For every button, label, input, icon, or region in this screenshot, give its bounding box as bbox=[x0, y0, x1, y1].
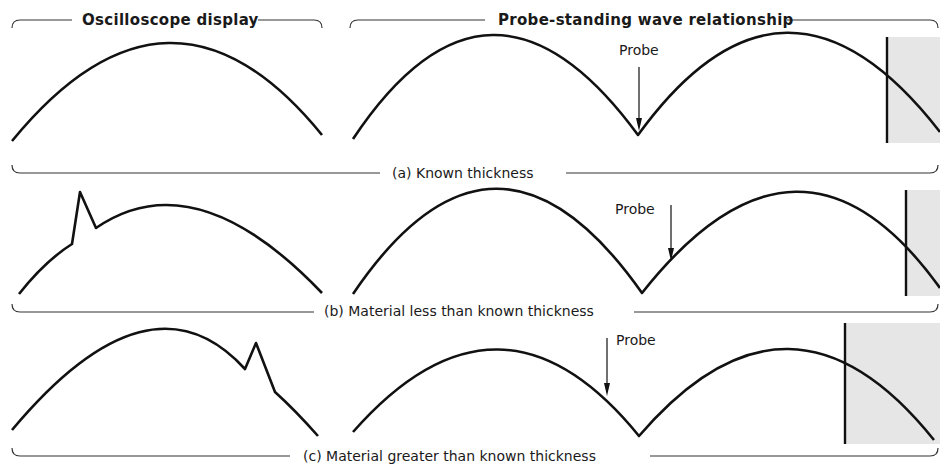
panel-b: Probe (b) Material less than known thick… bbox=[12, 189, 940, 319]
panel-a: Probe (a) Known thickness bbox=[12, 33, 940, 181]
caption-bracket-b-right bbox=[634, 304, 938, 312]
header-oscilloscope-display: Oscilloscope display bbox=[82, 11, 259, 29]
diagram-canvas: Oscilloscope display Probe-standing wave… bbox=[0, 0, 940, 465]
panel-c: Probe (c) Material greater than known th… bbox=[12, 323, 940, 464]
probe-arrowhead-c bbox=[604, 383, 610, 396]
caption-bracket-b-left bbox=[12, 304, 314, 312]
probe-label-c: Probe bbox=[616, 332, 656, 348]
caption-bracket-a-left bbox=[12, 165, 380, 173]
caption-c: (c) Material greater than known thicknes… bbox=[303, 448, 596, 464]
oscilloscope-trace-c bbox=[12, 329, 318, 436]
header-probe-standing-wave: Probe-standing wave relationship bbox=[498, 11, 794, 29]
caption-bracket-a-right bbox=[566, 165, 938, 173]
oscilloscope-trace-b bbox=[19, 192, 322, 294]
caption-bracket-c-left bbox=[12, 448, 290, 456]
probe-label-a: Probe bbox=[619, 42, 659, 58]
caption-b: (b) Material less than known thickness bbox=[324, 303, 594, 319]
material-region-c bbox=[845, 323, 940, 444]
probe-label-b: Probe bbox=[615, 201, 655, 217]
oscilloscope-trace-a bbox=[12, 43, 322, 141]
caption-a: (a) Known thickness bbox=[392, 165, 533, 181]
caption-bracket-c-right bbox=[650, 448, 938, 456]
material-region-a bbox=[887, 37, 940, 143]
